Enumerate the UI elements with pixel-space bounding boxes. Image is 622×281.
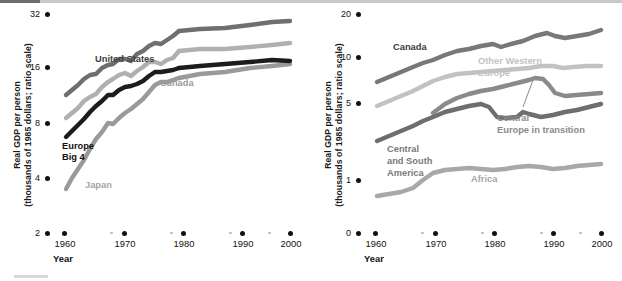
annotation-europe-big-4-line2: Big 4: [62, 152, 85, 163]
annotation-africa: Africa: [471, 174, 497, 185]
annotation-central-south-america-line3: America: [387, 168, 424, 179]
figure-two-panel-gdp-chart: Real GDP per person (thousands of 1985 d…: [0, 0, 622, 281]
annotation-europe-big-4-line1: Europe: [62, 141, 94, 152]
panel-right: Real GDP per person (thousands of 1985 d…: [311, 0, 622, 281]
left-panel-plot: [0, 0, 311, 281]
annotation-central-europe-line2: Europe in transition: [497, 125, 585, 136]
series-line-united-states-tail: [179, 21, 290, 31]
annotation-canada: Canada: [160, 78, 194, 89]
panel-left: Real GDP per person (thousands of 1985 d…: [0, 0, 311, 281]
annotation-central-south-america-line1: Central: [387, 144, 419, 155]
series-line-japan: [66, 78, 179, 189]
right-panel-plot: [311, 0, 622, 281]
annotation-other-western-europe-line2: Europe: [478, 68, 510, 79]
annotation-leader-line-central-europe: [523, 80, 533, 107]
annotation-other-western-europe-line1: Other Western: [478, 56, 542, 67]
annotation-united-states: United States: [95, 54, 154, 65]
annotation-central-europe-line1: Central: [497, 113, 529, 124]
series-line-canada-tail: [179, 43, 290, 51]
annotation-central-south-america-line2: and South: [387, 156, 432, 167]
annotation-canada-right: Canada: [393, 42, 427, 53]
annotation-japan: Japan: [85, 180, 112, 191]
